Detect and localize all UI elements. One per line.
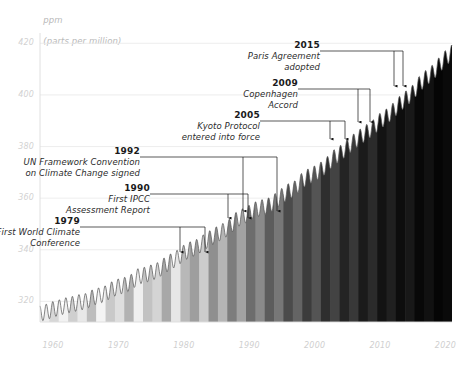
x-axis-tick-label: 2000 [298,341,332,350]
warming-stripe [358,21,368,324]
x-axis-tick-label: 1990 [232,341,266,350]
warming-stripe [340,21,350,324]
x-axis-tick-label: 1970 [101,341,135,350]
x-axis-tick-label: 2020 [428,341,462,350]
annotation-year: 2009 [146,78,298,89]
warming-stripe [405,21,415,324]
y-axis-tick-label: 400 [10,90,34,99]
annotation-1992: 1992UN Framework Conventionon Climate Ch… [0,146,140,178]
annotation-leader [320,51,403,86]
warming-stripe [443,21,453,324]
annotation-text-line2: Conference [0,238,80,249]
annotation-text-line2: entered into force [108,132,260,143]
warming-stripe [377,21,387,324]
warming-stripe [368,21,378,324]
warming-stripe [143,21,153,324]
annotation-1990: 1990First IPCCAssessment Report [0,183,150,215]
annotation-2005: 2005Kyoto Protocolentered into force [108,110,260,142]
annotation-2009: 2009CopenhagenAccord [146,78,298,110]
annotation-text-line2: Assessment Report [0,205,150,216]
annotation-leader [80,227,205,252]
warming-stripe [330,21,340,324]
annotation-text-line1: First World Climate [0,227,80,238]
x-axis-tick-label: 1960 [36,341,70,350]
annotation-text-line1: UN Framework Convention [0,157,140,168]
x-axis-tick-label: 2010 [363,341,397,350]
annotation-leader [260,121,345,139]
warming-stripe [321,21,331,324]
warming-stripe [433,21,443,324]
annotation-text-line1: Copenhagen [146,89,298,100]
annotation-1979: 1979First World ClimateConference [0,216,80,248]
annotation-leader [150,194,248,218]
annotation-year: 1990 [0,183,150,194]
y-axis-tick-label: 420 [10,38,34,47]
annotation-leader [298,89,370,122]
warming-stripe [349,21,359,324]
warming-stripe [415,21,425,324]
annotation-2015: 2015Paris Agreementadopted [168,40,320,72]
annotation-text-line2: on Climate Change signed [0,168,140,179]
annotation-leader [140,157,277,211]
annotation-text-line2: adopted [168,62,320,73]
warming-stripe [396,21,406,324]
annotation-text-line1: First IPCC [0,194,150,205]
chart-root: ppm (parts per million) 3203403603804004… [0,0,463,371]
warming-stripe [386,21,396,324]
annotation-year: 1979 [0,216,80,227]
annotation-text-line1: Kyoto Protocol [108,121,260,132]
annotation-year: 2005 [108,110,260,121]
x-axis-tick-label: 1980 [167,341,201,350]
annotation-year: 2015 [168,40,320,51]
y-axis-tick-label: 320 [10,296,34,305]
annotation-text-line1: Paris Agreement [168,51,320,62]
annotation-text-line2: Accord [146,100,298,111]
annotation-year: 1992 [0,146,140,157]
